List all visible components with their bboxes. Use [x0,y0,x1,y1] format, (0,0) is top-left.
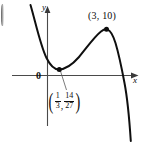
origin-label: 0 [36,71,41,81]
open-paren: ( [48,90,53,113]
close-paren: ) [76,90,81,113]
min-x-numerator: 1 [55,92,61,100]
cubic-curve [31,5,131,141]
min-y-numerator: 14 [64,92,74,100]
y-axis-label: y [42,3,46,12]
min-y-fraction: 14 27 [64,92,74,110]
min-y-denominator: 27 [64,101,74,110]
local-minimum-label: ( 1 3 , 14 27 ) [47,90,82,112]
page-edge-artifact [1,4,4,26]
minimum-leader-line [60,70,66,90]
x-axis-label: x [133,76,137,85]
local-maximum-label: (3, 10) [88,11,116,21]
cubic-function-graph [0,0,146,143]
local-minimum-point [57,67,62,72]
coordinate-comma: , [61,101,64,112]
local-maximum-point [104,27,109,32]
